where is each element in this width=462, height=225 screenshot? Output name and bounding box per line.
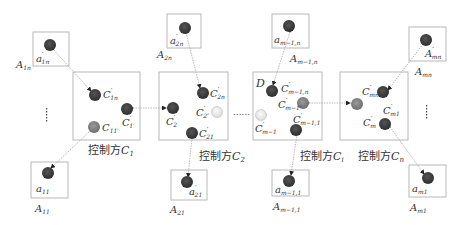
node-am-11: [283, 175, 295, 187]
label-box-a1n: A1n: [15, 59, 31, 71]
edge-a2n-c2n: [186, 33, 200, 88]
label-node-c1prime: C′1′: [122, 115, 135, 129]
node-c1prime: [121, 103, 133, 115]
label-node-cm-1: C′m−1: [255, 121, 277, 135]
label-box-a2n: A2n: [156, 49, 172, 61]
label-node-a2n: a′2n: [170, 33, 183, 47]
edge-c21-a21: [188, 138, 192, 177]
label-node-c11: C11′: [102, 122, 119, 134]
node-c11: [88, 121, 100, 133]
label-node-c2dprime: C′2″: [196, 105, 210, 119]
control-diagram: a′1n A1n a11 A11 a′2n A2n a′21 A21 am−1,…: [0, 0, 462, 225]
ellipsis-horizontal: ......: [233, 107, 250, 117]
node-cm-1: [256, 110, 267, 121]
label-box-a21: A21: [169, 204, 185, 216]
label-node-a1n: a′1n: [36, 51, 49, 65]
label-box-a11: A11: [34, 203, 50, 215]
node-cm1: [379, 118, 391, 130]
vertical-ellipsis-left: [46, 108, 47, 122]
label-node-c2: C′2: [166, 114, 177, 128]
label-node-cmn: C′mn: [362, 84, 379, 98]
label-node-c2n: C′2n: [210, 86, 225, 100]
edge-a1n-c1n: [52, 48, 91, 91]
node-a2n: [179, 22, 191, 34]
label-node-cm: C′m: [363, 115, 376, 129]
label-box-am-11: Am−1,1: [272, 201, 301, 213]
node-c1n: [89, 89, 101, 101]
controller-label-c1: 控制方C1: [88, 143, 134, 158]
label-box-am1: Am1: [409, 202, 427, 214]
label-node-a11: a11: [36, 183, 50, 195]
node-c2dprime: [212, 107, 223, 118]
controller-label-ci: 控制方Ci: [300, 149, 344, 164]
node-am1: [422, 172, 434, 184]
label-marker-d: D: [255, 77, 265, 90]
node-cm-1n: [266, 85, 278, 97]
controller-box-cn: [340, 72, 408, 140]
label-node-cm1: C′m1: [383, 103, 400, 117]
label-node-cm-11: C′m−1,1: [293, 112, 321, 126]
node-c2n: [197, 87, 209, 99]
label-node-amn: A′mn: [424, 46, 442, 60]
label-node-c21: C′21: [199, 126, 214, 140]
controller-label-c2: 控制方C2: [199, 149, 245, 164]
node-c2: [167, 102, 179, 114]
label-node-am1: am1: [412, 183, 427, 195]
node-amn: [420, 34, 432, 46]
vertical-ellipsis-right: [426, 105, 427, 119]
label-box-amn: Amn: [414, 66, 432, 78]
node-a11: [42, 167, 54, 179]
label-node-c1n: C′1n: [103, 87, 118, 101]
controller-label-cn: 控制方Cn: [358, 149, 404, 164]
node-cm: [351, 98, 363, 110]
node-c21: [186, 127, 198, 139]
label-node-am-1n: am−1,n: [274, 34, 300, 46]
label-node-cm-1n: C′m−1,n: [281, 81, 309, 95]
label-node-a21: a′21: [189, 184, 202, 198]
node-a1n: [44, 39, 56, 51]
node-am-1n: [283, 20, 295, 32]
label-box-am-1n: Am−1,n: [289, 53, 318, 65]
